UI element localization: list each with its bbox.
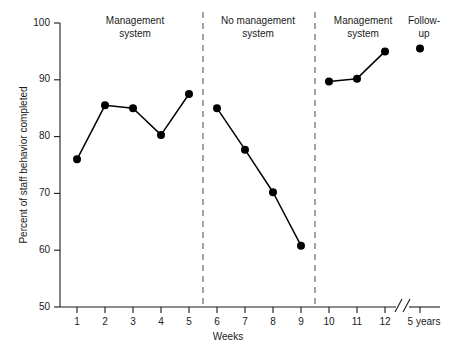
data-point (129, 104, 137, 112)
phase-label-management-2-line2: system (347, 28, 379, 39)
x-tick-label-1: 1 (74, 316, 80, 327)
data-point (101, 101, 109, 109)
x-tick-label-6: 6 (214, 316, 220, 327)
x-tick-label-7: 7 (242, 316, 248, 327)
y-tick-label-100: 100 (33, 17, 50, 28)
x-tick-label-11: 11 (352, 316, 363, 327)
phase-label-follow-up-line2: up (418, 28, 430, 39)
series-0 (73, 90, 193, 163)
data-point (353, 75, 361, 83)
x-tick-label-3: 3 (130, 316, 136, 327)
x-tick-label-9: 9 (298, 316, 304, 327)
data-point (73, 155, 81, 163)
x-axis-group: 1 2 3 4 5 6 7 8 9 10 11 12 5 years Weeks (60, 299, 440, 342)
x-tick-label-followup: 5 years (408, 316, 441, 327)
data-point (269, 188, 277, 196)
y-tick-label-80: 80 (39, 130, 51, 141)
x-tick-label-2: 2 (102, 316, 108, 327)
y-tick-label-70: 70 (39, 187, 51, 198)
phase-label-management-2-line1: Management (334, 15, 393, 26)
data-point (325, 78, 333, 86)
axis-break-slash-1 (395, 299, 402, 312)
y-axis-title: Percent of staff behavior completed (18, 86, 29, 243)
series-3 (416, 45, 424, 53)
x-tick-label-8: 8 (270, 316, 276, 327)
x-axis-title: Weeks (213, 331, 243, 342)
data-point (157, 131, 165, 139)
phase-label-follow-up-line1: Follow- (408, 15, 440, 26)
chart-svg: 100 90 80 70 60 50 Percent of staff beha… (0, 0, 456, 353)
series-line (217, 108, 301, 245)
x-tick-label-10: 10 (323, 316, 335, 327)
phase-labels-group: Management system No management system M… (106, 15, 440, 39)
data-point (213, 104, 221, 112)
y-axis-group: 100 90 80 70 60 50 Percent of staff beha… (18, 17, 60, 312)
y-tick-label-50: 50 (39, 301, 51, 312)
figure-container: 100 90 80 70 60 50 Percent of staff beha… (0, 0, 456, 353)
phase-dividers-group (203, 12, 315, 307)
x-tick-label-12: 12 (379, 316, 391, 327)
series-line (77, 94, 189, 159)
phase-label-no-management-line1: No management (221, 15, 295, 26)
phase-label-no-management-line2: system (242, 28, 274, 39)
data-point (241, 146, 249, 154)
phase-label-management-1-line1: Management (106, 15, 165, 26)
data-point (185, 90, 193, 98)
y-tick-label-90: 90 (39, 73, 51, 84)
data-point (381, 47, 389, 55)
data-series-layer (73, 45, 424, 250)
x-tick-label-5: 5 (186, 316, 192, 327)
phase-label-management-1-line2: system (119, 28, 151, 39)
axis-break-slash-2 (403, 299, 410, 312)
x-tick-label-4: 4 (158, 316, 164, 327)
series-1 (213, 104, 305, 249)
series-2 (325, 47, 389, 85)
y-tick-label-60: 60 (39, 244, 51, 255)
data-point (297, 242, 305, 250)
data-point (416, 45, 424, 53)
